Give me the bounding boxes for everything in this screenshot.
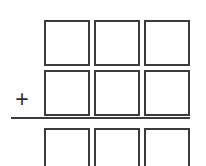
digit-box-first-addend-hundreds[interactable]: [44, 20, 90, 66]
plus-operator-symbol: +: [10, 87, 34, 111]
digit-box-second-addend-hundreds[interactable]: [44, 70, 90, 116]
digit-box-first-addend-ones[interactable]: [144, 20, 190, 66]
sum-rule-line: [11, 117, 190, 119]
digit-box-second-addend-ones[interactable]: [144, 70, 190, 116]
digit-box-second-addend-tens[interactable]: [94, 70, 140, 116]
digit-box-sum-hundreds[interactable]: [44, 128, 90, 166]
addition-worksheet: +: [0, 0, 206, 166]
digit-box-sum-ones[interactable]: [144, 128, 190, 166]
digit-box-first-addend-tens[interactable]: [94, 20, 140, 66]
digit-box-sum-tens[interactable]: [94, 128, 140, 166]
